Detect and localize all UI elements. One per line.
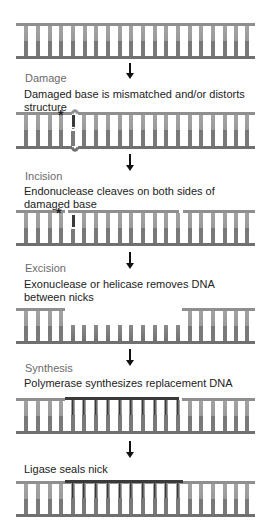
step-description-incision: Endonuclease cleaves on both sides of da…: [24, 185, 254, 211]
dna-ligated: [16, 480, 255, 517]
arrow-down-icon: [126, 349, 134, 366]
dna-synthesized: [16, 397, 255, 434]
arrow-down-icon: [126, 441, 134, 458]
excision-repair-diagram: * *: [0, 0, 271, 531]
dna-excised: [16, 308, 255, 344]
dna-intact: [16, 23, 255, 59]
arrow-down-icon: [126, 252, 134, 269]
dna-damaged: [16, 111, 255, 151]
arrow-down-icon: [126, 154, 134, 171]
step-title-damage: Damage: [25, 72, 67, 84]
dna-incised: [16, 210, 255, 246]
step-title-synthesis: Synthesis: [25, 362, 73, 374]
step-description-damage: Damaged base is mismatched and/or distor…: [24, 88, 254, 114]
step-title-incision: Incision: [25, 170, 62, 182]
step-description-synthesis: Polymerase synthesizes replacement DNA: [24, 377, 254, 390]
step-description-ligation: Ligase seals nick: [24, 463, 254, 476]
step-description-excision: Exonuclease or helicase removes DNA betw…: [24, 278, 254, 304]
step-title-excision: Excision: [25, 262, 66, 274]
arrow-down-icon: [126, 63, 134, 79]
